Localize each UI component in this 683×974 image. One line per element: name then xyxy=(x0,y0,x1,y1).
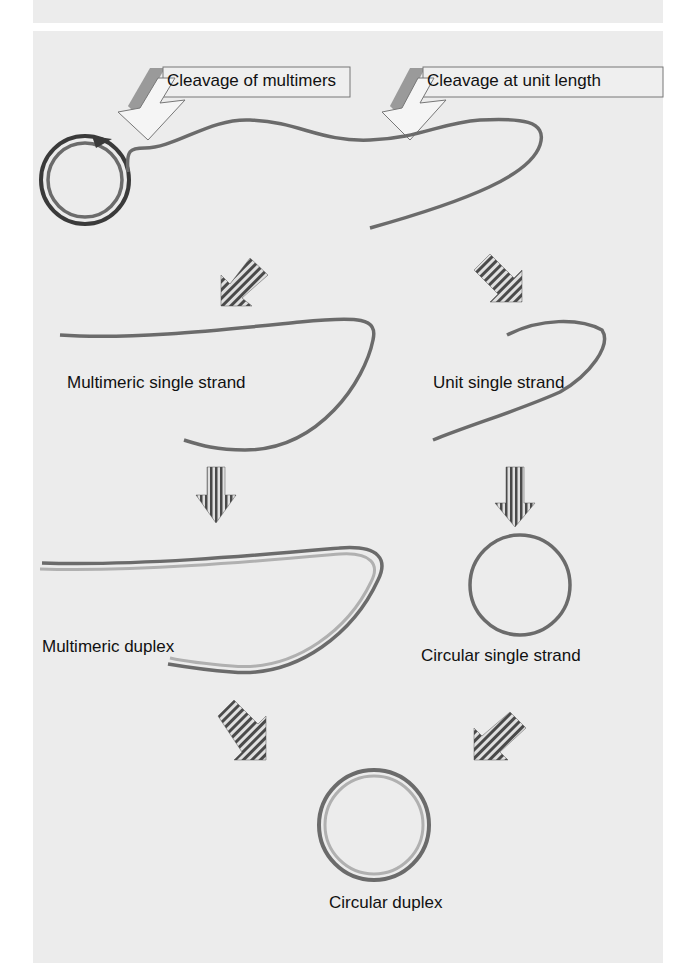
label-unit-single-strand: Unit single strand xyxy=(433,373,564,393)
arrow-down-left-icon xyxy=(474,712,526,760)
arrow-down-left-icon xyxy=(221,258,268,306)
circular-duplex xyxy=(319,770,429,880)
callout-label-cleavage-unit: Cleavage at unit length xyxy=(427,71,601,91)
label-circular-duplex: Circular duplex xyxy=(329,893,442,913)
label-multimeric-duplex: Multimeric duplex xyxy=(42,637,174,657)
callout-label-cleavage-multimers: Cleavage of multimers xyxy=(167,71,336,91)
rolling-circle-diagram xyxy=(0,0,683,974)
label-multimeric-single-strand: Multimeric single strand xyxy=(67,373,246,393)
arrow-down-icon xyxy=(196,467,236,523)
circular-single-strand xyxy=(470,535,570,635)
arrow-down-right-icon xyxy=(218,700,266,760)
arrow-down-icon xyxy=(495,467,535,527)
rolling-circle xyxy=(41,119,541,228)
label-circular-single-strand: Circular single strand xyxy=(421,646,581,666)
arrow-down-right-icon xyxy=(474,254,522,302)
